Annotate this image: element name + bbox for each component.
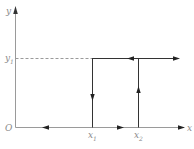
phase-diagram: y x O y 1 x 1 x 2 bbox=[0, 0, 194, 149]
x2-up-arrow-icon bbox=[136, 86, 140, 93]
bottom-middle-arrow-icon bbox=[117, 125, 124, 129]
top-right-arrow-icon bbox=[173, 56, 180, 60]
y-axis-arrow-icon bbox=[13, 6, 18, 14]
x1-subscript: 1 bbox=[93, 135, 97, 142]
origin-label: O bbox=[5, 123, 13, 133]
x2-subscript: 2 bbox=[138, 135, 143, 142]
x-axis-label: x bbox=[187, 123, 192, 133]
y1-subscript: 1 bbox=[10, 58, 14, 65]
x1-down-arrow-icon bbox=[90, 94, 94, 101]
top-left-arrow-icon bbox=[127, 56, 134, 60]
y-axis-label: y bbox=[5, 6, 12, 16]
bottom-left-arrow-icon bbox=[42, 125, 49, 129]
x-axis-arrow-icon bbox=[178, 125, 185, 129]
